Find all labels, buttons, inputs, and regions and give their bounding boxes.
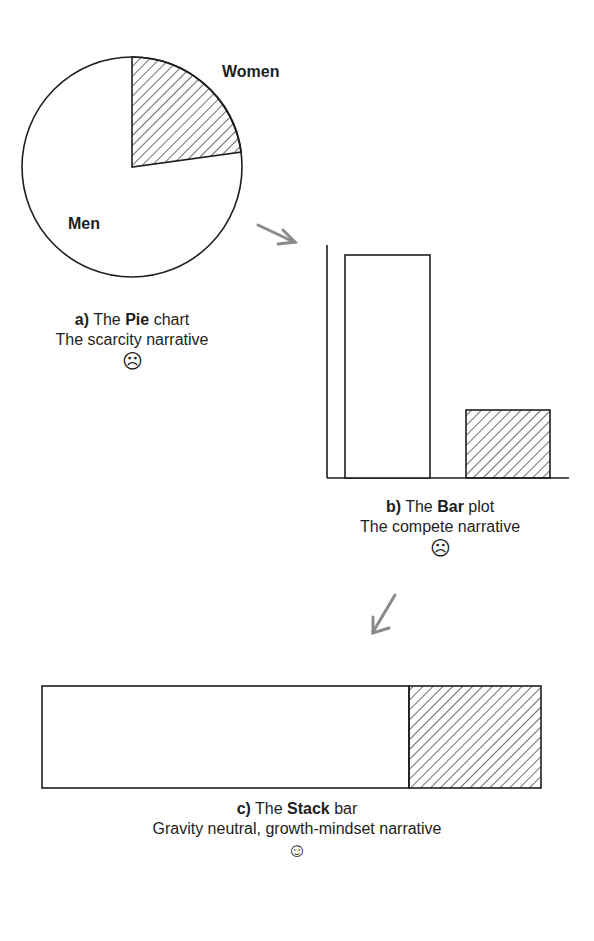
bar-women	[466, 410, 550, 478]
caption-title: c) The Stack bar	[97, 799, 497, 819]
arrow-icon	[373, 595, 395, 633]
sad-face-icon: ☹	[32, 350, 232, 372]
bar-men	[345, 255, 430, 478]
arrow-icon	[258, 225, 295, 244]
stack-segment-women	[409, 686, 541, 788]
caption-pie: a) The Pie chart The scarcity narrative …	[32, 310, 232, 372]
pie-label-men: Men	[68, 215, 100, 233]
pie-chart	[22, 57, 242, 277]
caption-bar: b) The Bar plot The compete narrative ☹	[340, 497, 540, 559]
caption-subtitle: The compete narrative	[340, 517, 540, 537]
pie-label-women: Women	[222, 63, 279, 81]
smiley-face-icon: ☺	[97, 839, 497, 861]
stack-segment-men	[42, 686, 409, 788]
caption-title: b) The Bar plot	[340, 497, 540, 517]
sad-face-icon: ☹	[340, 537, 540, 559]
caption-stack: c) The Stack bar Gravity neutral, growth…	[97, 799, 497, 861]
caption-title: a) The Pie chart	[32, 310, 232, 330]
caption-subtitle: The scarcity narrative	[32, 330, 232, 350]
caption-subtitle: Gravity neutral, growth-mindset narrativ…	[97, 819, 497, 839]
stack-bar	[42, 686, 541, 788]
bar-chart	[327, 245, 569, 478]
